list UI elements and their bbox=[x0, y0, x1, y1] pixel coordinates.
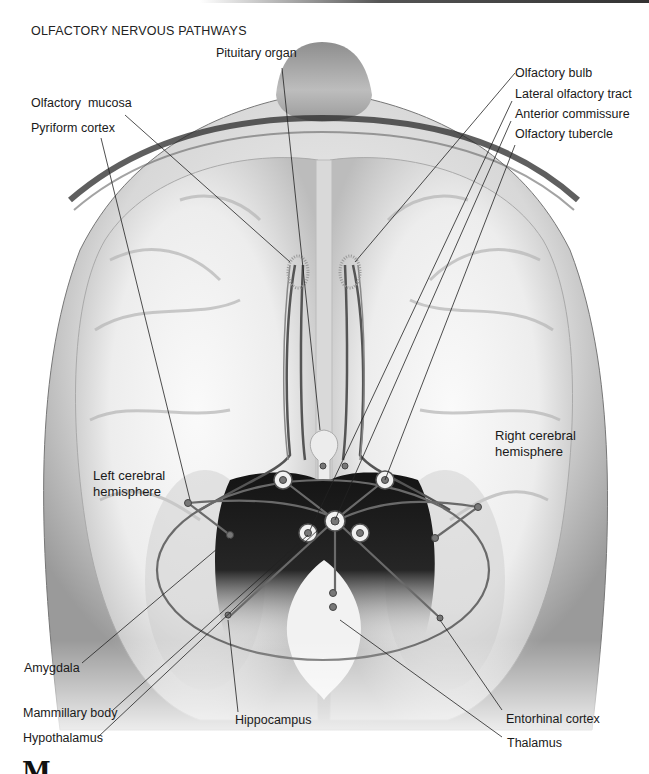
label-anterior-commissure: Anterior commissure bbox=[515, 107, 630, 121]
label-pyriform-cortex: Pyriform cortex bbox=[31, 121, 115, 135]
label-pituitary-organ: Pituitary organ bbox=[216, 46, 297, 60]
label-mammillary-body: Mammillary body bbox=[23, 706, 117, 720]
label-amygdala: Amygdala bbox=[24, 661, 80, 675]
label-right-cerebral-hemisphere: Right cerebral hemisphere bbox=[495, 428, 595, 460]
label-olfactory-bulb: Olfactory bulb bbox=[515, 66, 592, 80]
label-olfactory-tubercle: Olfactory tubercle bbox=[515, 127, 613, 141]
next-section-heading: M bbox=[22, 756, 52, 774]
label-thalamus: Thalamus bbox=[507, 736, 562, 750]
label-lateral-olfactory-tract: Lateral olfactory tract bbox=[515, 87, 632, 101]
label-entorhinal-cortex: Entorhinal cortex bbox=[506, 712, 600, 726]
figure-title: OLFACTORY NERVOUS PATHWAYS bbox=[31, 24, 247, 38]
label-hypothalamus: Hypothalamus bbox=[23, 731, 103, 745]
label-hippocampus: Hippocampus bbox=[235, 713, 311, 727]
label-left-cerebral-hemisphere: Left cerebral hemisphere bbox=[93, 468, 213, 500]
label-olfactory-mucosa: Olfactory mucosa bbox=[31, 96, 132, 110]
